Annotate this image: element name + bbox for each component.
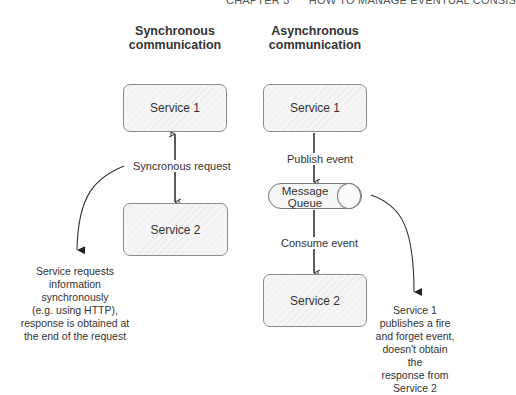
sync-service-2-label: Service 2 [150,223,200,237]
async-service-2-label: Service 2 [290,294,340,308]
sync-note-line: Service requests [17,265,133,278]
sync-note-arrow [77,166,124,250]
consume-event-label: Consume event [279,237,360,249]
message-queue: Message Queue [268,183,362,209]
sync-service-1-label: Service 1 [150,101,200,115]
async-note-line: and forget event, [375,330,455,343]
sync-note-line: the end of the request [17,330,133,343]
async-note-line: publishes a fire [375,317,455,330]
sync-note-line: information synchronously [17,278,133,304]
sync-note-line: response is obtained at [17,317,133,330]
sync-note: Service requests information synchronous… [17,265,133,343]
async-note-line: doesn't obtain the [375,343,455,369]
async-note-line: Service 1 [375,304,455,317]
async-note-line: Service 2 [375,382,455,395]
async-service-1-box: Service 1 [263,84,367,132]
sync-request-label: Syncronous request [131,160,233,172]
sync-service-1-box: Service 1 [123,84,227,132]
message-queue-label: Message Queue [277,185,333,209]
async-note: Service 1 publishes a fire and forget ev… [375,304,455,395]
queue-label-line1: Message [277,185,333,197]
publish-event-label: Publish event [285,153,355,165]
sync-note-line: (e.g. using HTTP), [17,304,133,317]
queue-label-line2: Queue [277,197,333,209]
sync-service-2-box: Service 2 [123,203,228,256]
async-service-2-box: Service 2 [263,274,367,327]
async-note-arrow [371,195,414,292]
async-note-line: response from [375,369,455,382]
async-service-1-label: Service 1 [290,101,340,115]
queue-cylinder-cap-icon [337,183,361,209]
